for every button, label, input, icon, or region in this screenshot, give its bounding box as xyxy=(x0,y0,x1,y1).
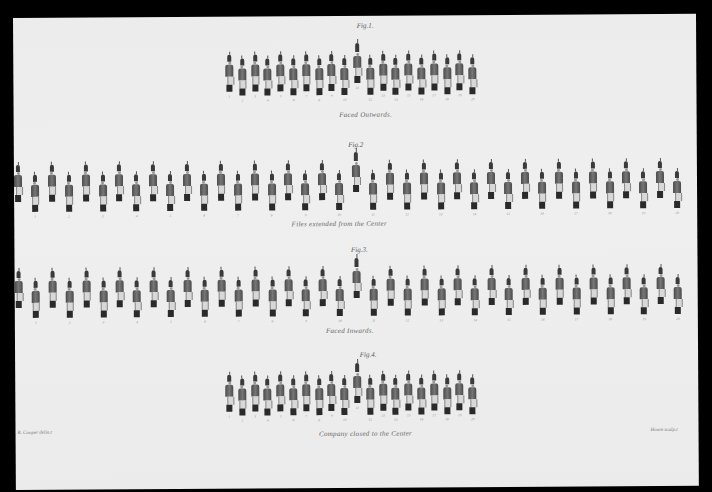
soldier-hat xyxy=(240,379,244,386)
soldier-boots xyxy=(235,204,241,211)
soldier-hat xyxy=(557,268,561,275)
soldier-boots xyxy=(404,309,410,316)
soldier-figure xyxy=(656,161,664,199)
soldier-legs xyxy=(432,75,439,83)
soldier-coat xyxy=(572,288,580,300)
soldier-coat xyxy=(276,384,284,396)
soldier-legs xyxy=(118,292,125,300)
soldier-legs xyxy=(473,300,480,308)
soldier-legs xyxy=(240,401,247,409)
soldier-hat xyxy=(291,58,295,65)
soldier-figure: 20 xyxy=(468,377,476,415)
file-number: 2 xyxy=(66,321,74,325)
soldier-boots xyxy=(83,195,89,202)
fig1-row: 1234567891011121314151617181920 xyxy=(13,14,696,18)
soldier-coat xyxy=(65,291,73,303)
soldier-coat xyxy=(539,288,547,300)
soldier-coat xyxy=(606,181,614,193)
file-number: 6 xyxy=(289,418,297,422)
soldier-figure xyxy=(14,165,22,203)
soldier-legs xyxy=(457,75,464,83)
soldier-legs xyxy=(342,400,349,408)
soldier-coat xyxy=(417,67,425,79)
file-number: 12 xyxy=(366,418,374,422)
soldier-figure: 1 xyxy=(225,55,233,93)
soldier-legs xyxy=(32,197,39,205)
soldier-coat xyxy=(386,279,394,291)
soldier-hat xyxy=(219,270,223,277)
file-number: 9 xyxy=(302,319,310,323)
soldier-legs xyxy=(607,193,614,201)
soldier-boots xyxy=(151,300,157,307)
soldier-hat xyxy=(432,53,436,60)
soldier-boots xyxy=(455,298,461,305)
soldier-boots xyxy=(418,407,424,414)
soldier-coat xyxy=(234,184,242,196)
soldier-boots xyxy=(303,404,309,411)
soldier-figure: 15 xyxy=(504,172,512,210)
soldier-legs xyxy=(444,79,451,87)
soldier-legs xyxy=(291,80,298,88)
soldier-hat xyxy=(84,271,88,278)
soldier-figure: 3 xyxy=(251,375,259,413)
soldier-figure xyxy=(657,267,665,305)
soldier-legs xyxy=(320,185,327,193)
file-number: 20 xyxy=(469,97,477,101)
soldier-coat xyxy=(572,182,580,194)
soldier-figure: 12 xyxy=(403,173,411,211)
file-number: 7 xyxy=(302,94,310,98)
soldier-legs xyxy=(675,193,682,201)
soldier-legs xyxy=(456,290,463,298)
soldier-hat xyxy=(236,280,240,287)
soldier-legs xyxy=(642,299,649,307)
file-number: 12 xyxy=(403,213,411,217)
soldier-boots xyxy=(33,311,39,318)
file-number: 13 xyxy=(437,212,445,216)
soldier-coat xyxy=(264,388,272,400)
soldier-boots xyxy=(354,76,360,83)
soldier-legs xyxy=(252,185,259,193)
soldier-legs xyxy=(419,399,426,407)
soldier-figure: 6 xyxy=(289,378,297,416)
soldier-boots xyxy=(675,307,681,314)
soldier-figure: 16 xyxy=(538,172,546,210)
soldier-hat xyxy=(624,161,628,168)
soldier-figure: 17 xyxy=(430,53,438,91)
soldier-coat xyxy=(521,172,529,184)
soldier-legs xyxy=(624,183,631,191)
soldier-figure: 15 xyxy=(505,278,513,316)
soldier-boots xyxy=(393,88,399,95)
soldier-figure xyxy=(250,164,258,202)
soldier-hat xyxy=(590,161,594,168)
soldier-coat xyxy=(183,174,191,186)
soldier-legs xyxy=(168,302,175,310)
file-number: 17 xyxy=(573,318,581,322)
soldier-boots xyxy=(489,298,495,305)
soldier-coat xyxy=(251,385,259,397)
soldier-figure: 10 xyxy=(340,58,348,96)
file-number: 10 xyxy=(335,213,343,217)
file-number: 7 xyxy=(302,414,310,418)
soldier-coat xyxy=(468,387,476,399)
soldier-boots xyxy=(285,193,291,200)
soldier-figure: 8 xyxy=(268,279,276,317)
soldier-coat xyxy=(217,174,225,186)
file-number: 7 xyxy=(234,214,242,218)
soldier-hat xyxy=(641,171,645,178)
soldier-boots xyxy=(201,204,207,211)
soldier-boots xyxy=(168,310,174,317)
soldier-legs xyxy=(134,196,141,204)
soldier-boots xyxy=(269,309,275,316)
file-number: 5 xyxy=(167,320,175,324)
soldier-legs xyxy=(393,400,400,408)
soldier-boots xyxy=(573,202,579,209)
soldier-legs xyxy=(253,291,260,299)
soldier-hat xyxy=(607,171,611,178)
file-number: 18 xyxy=(606,317,614,321)
soldier-hat xyxy=(394,378,398,385)
soldier-legs xyxy=(304,396,311,404)
soldier-boots xyxy=(471,202,477,209)
soldier-boots xyxy=(556,192,562,199)
soldier-hat xyxy=(50,271,54,278)
soldier-figure xyxy=(217,270,225,308)
